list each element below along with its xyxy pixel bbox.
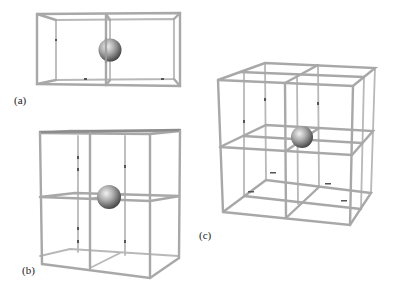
- sphere-c: [291, 126, 313, 148]
- panel-label-b: (b): [22, 264, 35, 276]
- figure-canvas: [0, 0, 393, 289]
- sphere-a: [99, 39, 122, 62]
- sphere-b: [97, 185, 121, 209]
- panel-label-c: (c): [199, 229, 211, 241]
- panel-label-a: (a): [14, 94, 26, 106]
